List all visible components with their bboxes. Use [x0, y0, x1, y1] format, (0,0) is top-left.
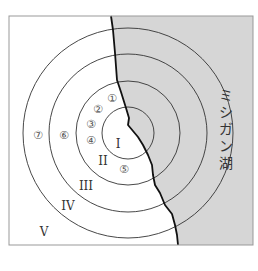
lake-label-char-3: ガ — [219, 121, 233, 137]
zone-label-1: I — [116, 137, 121, 151]
zone-label-4: IV — [61, 199, 75, 213]
concentric-zone-diagram: ミ シ ガ ン 湖 IIIIIIIVV ①②③④⑤⑥⑦ — [0, 0, 258, 271]
site-marker-7: ⑦ — [33, 129, 43, 142]
site-marker-2: ② — [93, 103, 103, 116]
site-marker-1: ① — [107, 92, 117, 105]
lake-label-char-1: ミ — [219, 87, 233, 103]
zone-label-3: III — [79, 179, 93, 193]
lake-label-char-4: ン — [219, 138, 233, 154]
site-marker-6: ⑥ — [59, 129, 69, 142]
site-marker-3: ③ — [86, 118, 96, 131]
lake-label-char-2: シ — [219, 104, 233, 120]
site-marker-4: ④ — [86, 134, 96, 147]
lake-label: ミ シ ガ ン 湖 — [219, 87, 233, 171]
lake-label-char-5: 湖 — [219, 155, 233, 171]
zone-label-2: II — [98, 154, 108, 168]
zone-label-5: V — [39, 225, 49, 239]
site-marker-5: ⑤ — [119, 163, 129, 176]
